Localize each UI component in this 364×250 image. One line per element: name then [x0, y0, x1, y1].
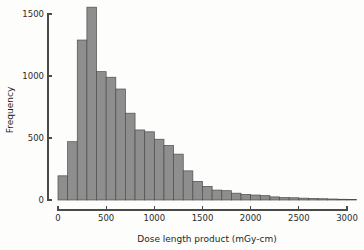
histogram-bar	[135, 130, 145, 200]
y-tick-label: 1500	[22, 9, 44, 19]
histogram-bar	[164, 145, 174, 200]
histogram-bar	[280, 198, 290, 200]
histogram-bar	[222, 191, 232, 200]
histogram-bar	[231, 193, 241, 200]
histogram-bar	[87, 7, 97, 200]
histogram-bar	[347, 199, 357, 200]
histogram-bar	[308, 199, 318, 200]
y-axis-spine	[48, 14, 52, 200]
histogram-bar	[106, 77, 116, 200]
histogram-bar	[299, 198, 309, 200]
histogram-bar	[183, 171, 193, 200]
histogram-bar	[154, 139, 164, 200]
histogram-bar	[193, 181, 203, 200]
x-tick-label: 500	[98, 213, 114, 223]
histogram-bar	[145, 132, 155, 200]
histogram-bar	[337, 199, 347, 200]
histogram-bar	[68, 142, 78, 200]
histogram-bar	[318, 199, 328, 200]
histogram-bar	[116, 89, 126, 200]
y-axis	[48, 14, 52, 200]
y-tick-label: 1000	[22, 71, 44, 81]
histogram-bar	[77, 40, 87, 200]
x-tick-label: 0	[55, 213, 60, 223]
x-tick-label: 2500	[288, 213, 310, 223]
x-tick-labels: 050010001500200025003000	[55, 213, 358, 223]
histogram-bar	[212, 190, 222, 200]
y-tick-label: 0	[39, 195, 44, 205]
y-tick-label: 500	[28, 133, 44, 143]
x-axis-title: Dose length product (mGy-cm)	[137, 234, 276, 244]
histogram-bar	[241, 194, 251, 200]
histogram-bar	[289, 198, 299, 200]
chart-canvas: 050010001500 050010001500200025003000 Do…	[0, 0, 364, 250]
x-tick-label: 1500	[192, 213, 214, 223]
x-axis	[58, 206, 347, 210]
x-tick-label: 1000	[144, 213, 166, 223]
x-tick-label: 2000	[240, 213, 262, 223]
histogram-bar	[174, 154, 184, 200]
x-tick-label: 3000	[336, 213, 358, 223]
histogram-bar	[203, 186, 213, 200]
y-axis-title: Frequency	[5, 86, 15, 133]
histogram-bar	[270, 197, 280, 200]
histogram-bar	[125, 113, 135, 200]
histogram-bar	[251, 195, 261, 200]
y-tick-labels: 050010001500	[22, 9, 44, 205]
histogram-figure: 050010001500 050010001500200025003000 Do…	[0, 0, 364, 250]
histogram-bar	[58, 176, 68, 200]
histogram-bar	[260, 196, 270, 200]
histogram-bar	[97, 72, 107, 200]
histogram-bar	[328, 199, 338, 200]
bars-group	[58, 7, 357, 200]
